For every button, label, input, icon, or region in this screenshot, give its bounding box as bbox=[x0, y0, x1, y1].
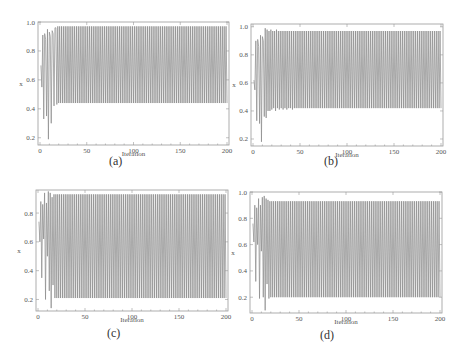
x-tick-label: 50 bbox=[296, 315, 304, 323]
caption-b: (b) bbox=[324, 154, 338, 169]
y-tick-label: 0.6 bbox=[238, 241, 247, 249]
y-tick-label: 0.8 bbox=[238, 215, 247, 223]
caption-a: (a) bbox=[109, 154, 122, 169]
y-axis-label: x bbox=[231, 249, 235, 257]
y-tick-label: 0.2 bbox=[238, 294, 247, 302]
x-tick-label: 200 bbox=[435, 315, 446, 323]
y-tick-label: 1.0 bbox=[238, 189, 247, 197]
chart-svg: 0501001502000.20.40.60.81.0Iterationx bbox=[0, 0, 458, 364]
x-axis-label: Iteration bbox=[334, 318, 358, 326]
caption-c: (c) bbox=[107, 326, 120, 341]
caption-d: (d) bbox=[320, 328, 334, 343]
y-tick-label: 0.4 bbox=[238, 267, 247, 275]
x-tick-label: 150 bbox=[388, 315, 399, 323]
x-tick-label: 0 bbox=[250, 315, 254, 323]
series-line bbox=[253, 196, 440, 310]
